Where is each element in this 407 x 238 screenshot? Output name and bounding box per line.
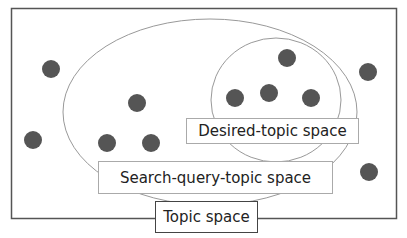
topic-dot [302,89,320,107]
topic-dot [260,84,278,102]
topic-dot [359,63,377,81]
topic-space-label: Topic space [155,201,258,233]
topic-dot [42,60,60,78]
topic-dot [24,131,42,149]
topic-dot [360,163,378,181]
desired-topic-space-label: Desired-topic space [186,118,359,144]
desired-topic-space-text: Desired-topic space [198,122,347,140]
topic-dot [98,134,116,152]
topic-dot [278,49,296,67]
topic-dot [128,94,146,112]
topic-space-text: Topic space [163,208,250,226]
topic-dot [142,134,160,152]
topic-dot [226,89,244,107]
search-query-topic-space-text: Search-query-topic space [120,169,311,187]
search-query-topic-space-label: Search-query-topic space [98,161,333,194]
